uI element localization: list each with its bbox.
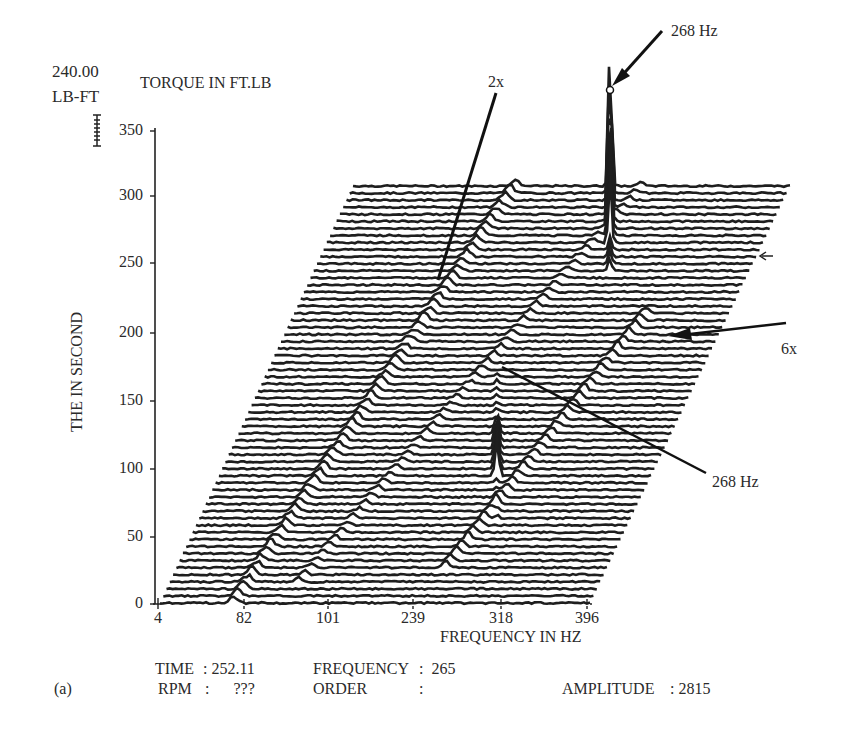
annotation-arrow-6x bbox=[668, 323, 786, 340]
y-tick-label: 300 bbox=[119, 186, 143, 204]
y-axis-label: THE IN SECOND bbox=[68, 312, 86, 432]
readout-rpm-label: RPM bbox=[158, 680, 192, 698]
readout-frequency-label: FREQUENCY bbox=[313, 660, 409, 678]
small-arrow-icon bbox=[760, 252, 773, 260]
annotation-6x: 6x bbox=[781, 340, 797, 358]
y-tick-label: 100 bbox=[119, 459, 143, 477]
y-tick-label: 250 bbox=[119, 253, 143, 271]
y-tick-label: 150 bbox=[119, 391, 143, 409]
annotation-2x: 2x bbox=[488, 73, 504, 91]
annotation-268hz-top: 268 Hz bbox=[671, 22, 718, 40]
chart-title: TORQUE IN FT.LB bbox=[140, 74, 271, 92]
x-tick-label: 82 bbox=[236, 609, 252, 627]
x-tick-label: 396 bbox=[575, 609, 599, 627]
amplitude-scale-unit: LB-FT bbox=[52, 87, 99, 107]
y-tick-label: 350 bbox=[119, 121, 143, 139]
x-tick-label: 239 bbox=[401, 609, 425, 627]
x-axis-label: FREQUENCY IN HZ bbox=[440, 628, 582, 646]
readout-order-label: ORDER bbox=[313, 680, 367, 698]
readout-amplitude-value: : 2815 bbox=[670, 680, 710, 698]
waterfall-traces bbox=[160, 67, 790, 606]
readout-amplitude-label: AMPLITUDE bbox=[562, 680, 654, 698]
amplitude-scale-value: 240.00 bbox=[52, 62, 99, 82]
readout-frequency-value: : 265 bbox=[419, 660, 455, 678]
amplitude-scale-bar-icon bbox=[93, 115, 101, 146]
annotation-268hz-mid: 268 Hz bbox=[712, 473, 759, 491]
y-tick-label: 0 bbox=[135, 594, 143, 612]
readout-time-value: : 252.11 bbox=[203, 660, 255, 678]
panel-label: (a) bbox=[54, 680, 72, 698]
readout-order-value: : bbox=[419, 680, 423, 698]
y-tick-label: 50 bbox=[127, 527, 143, 545]
x-tick-label: 101 bbox=[316, 609, 340, 627]
annotation-arrow-268hz-top bbox=[607, 31, 663, 94]
readout-time-label: TIME bbox=[155, 660, 194, 678]
x-tick-label: 318 bbox=[489, 609, 513, 627]
x-tick-label: 4 bbox=[154, 609, 162, 627]
y-tick-label: 200 bbox=[119, 323, 143, 341]
readout-rpm-value: : ??? bbox=[205, 680, 255, 698]
